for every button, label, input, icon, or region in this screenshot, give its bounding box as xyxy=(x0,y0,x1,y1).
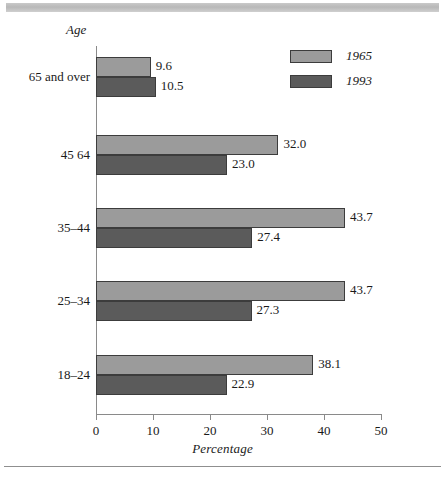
legend-swatch-1965 xyxy=(290,50,332,63)
bar-1965 xyxy=(96,135,278,155)
grouped-bar-chart: Age 01020304050 65 and over45 6435–4425–… xyxy=(0,0,445,481)
x-axis-title: Percentage xyxy=(0,441,445,457)
legend-label-1993: 1993 xyxy=(346,73,372,89)
bar-1965 xyxy=(96,355,313,375)
x-tick-20 xyxy=(210,415,211,420)
category-label: 25–34 xyxy=(4,293,90,309)
legend-swatch-1993 xyxy=(290,75,332,88)
bar-group: 43.727.4 xyxy=(96,208,381,248)
category-label: 65 and over xyxy=(4,69,90,85)
page-bottom-rule xyxy=(4,466,441,467)
bar-value-label: 38.1 xyxy=(318,356,341,372)
bar-group: 38.122.9 xyxy=(96,355,381,395)
x-axis-line xyxy=(96,414,382,415)
bar-value-label: 9.6 xyxy=(156,58,172,74)
x-tick-30 xyxy=(267,415,268,420)
category-label: 18–24 xyxy=(4,367,90,383)
bar-1993 xyxy=(96,155,227,175)
bar-value-label: 32.0 xyxy=(283,136,306,152)
bar-value-label: 23.0 xyxy=(232,156,255,172)
x-tick-10 xyxy=(153,415,154,420)
bar-value-label: 27.4 xyxy=(257,229,280,245)
bar-value-label: 43.7 xyxy=(350,282,373,298)
bar-1993 xyxy=(96,375,227,395)
category-label: 35–44 xyxy=(4,220,90,236)
x-tick-label-20: 20 xyxy=(190,423,230,439)
x-tick-label-0: 0 xyxy=(76,423,116,439)
x-tick-40 xyxy=(324,415,325,420)
x-tick-50 xyxy=(381,415,382,420)
y-axis-title: Age xyxy=(66,22,86,38)
x-tick-label-50: 50 xyxy=(361,423,401,439)
bar-value-label: 27.3 xyxy=(257,302,280,318)
x-tick-label-10: 10 xyxy=(133,423,173,439)
category-label: 45 64 xyxy=(4,147,90,163)
bar-value-label: 10.5 xyxy=(161,78,184,94)
bar-1965 xyxy=(96,57,151,77)
x-tick-0 xyxy=(96,415,97,420)
bar-1965 xyxy=(96,208,345,228)
legend-label-1965: 1965 xyxy=(346,48,372,64)
bar-value-label: 22.9 xyxy=(232,376,255,392)
bar-group: 43.727.3 xyxy=(96,281,381,321)
x-tick-label-30: 30 xyxy=(247,423,287,439)
x-tick-label-40: 40 xyxy=(304,423,344,439)
bar-group: 32.023.0 xyxy=(96,135,381,175)
bar-value-label: 43.7 xyxy=(350,209,373,225)
bar-group: 9.610.5 xyxy=(96,57,381,97)
bar-1993 xyxy=(96,228,252,248)
bar-1993 xyxy=(96,301,252,321)
bar-1993 xyxy=(96,77,156,97)
bar-1965 xyxy=(96,281,345,301)
